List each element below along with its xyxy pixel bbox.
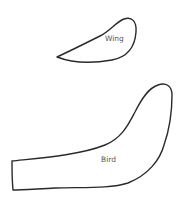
wing-label: Wing: [105, 34, 124, 43]
diagram-canvas: Wing Bird: [0, 0, 186, 201]
wing-shape: [57, 18, 136, 62]
bird-shape: [12, 84, 172, 190]
shapes-layer: [0, 0, 186, 201]
bird-label: Bird: [101, 155, 116, 164]
